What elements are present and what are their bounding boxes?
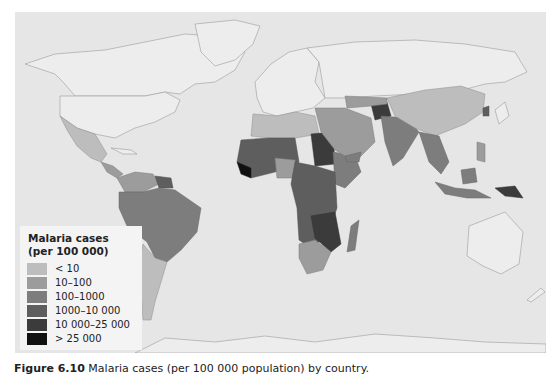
region-north-africa — [251, 112, 319, 138]
region-indonesia — [435, 182, 491, 198]
region-cuba — [111, 148, 137, 154]
map-legend: Malaria cases (per 100 000) < 10 10–100 … — [20, 226, 142, 350]
region-russia — [307, 40, 527, 98]
legend-swatch — [27, 319, 47, 331]
legend-swatch — [27, 263, 47, 275]
legend-item: > 25 000 — [27, 332, 102, 345]
figure-label: Figure 6.10 — [14, 362, 85, 375]
region-madagascar — [347, 220, 359, 252]
region-southeast-asia — [419, 132, 449, 174]
figure-caption: Figure 6.10 Malaria cases (per 100 000 p… — [14, 362, 369, 375]
region-north-korea — [483, 106, 489, 116]
region-antarctica — [135, 334, 546, 353]
region-new-zealand — [527, 288, 545, 302]
legend-label: 1000–10 000 — [55, 305, 120, 316]
region-guianas — [155, 176, 173, 188]
legend-swatch — [27, 305, 47, 317]
region-philippines — [477, 142, 485, 162]
region-europe — [255, 48, 325, 116]
region-borneo — [461, 168, 477, 184]
region-colombia-venezuela — [117, 172, 159, 192]
legend-title-line1: Malaria cases — [28, 232, 109, 245]
region-japan — [495, 102, 509, 124]
legend-item: 100–1000 — [27, 290, 105, 303]
region-central-america — [101, 162, 123, 178]
legend-item: 10 000–25 000 — [27, 318, 130, 331]
legend-item: < 10 — [27, 262, 79, 275]
legend-label: 10 000–25 000 — [55, 319, 130, 330]
region-papua-new-guinea — [495, 186, 523, 198]
legend-item: 10–100 — [27, 276, 92, 289]
legend-label: 10–100 — [55, 277, 92, 288]
legend-swatch — [27, 277, 47, 289]
legend-label: < 10 — [55, 263, 79, 274]
legend-label: 100–1000 — [55, 291, 105, 302]
legend-title: Malaria cases (per 100 000) — [28, 232, 109, 258]
region-australia — [467, 212, 523, 274]
legend-item: 1000–10 000 — [27, 304, 120, 317]
legend-swatch — [27, 291, 47, 303]
legend-title-line2: (per 100 000) — [28, 245, 109, 258]
legend-swatch — [27, 333, 47, 345]
legend-label: > 25 000 — [55, 333, 102, 344]
caption-text: Malaria cases (per 100 000 population) b… — [85, 362, 369, 375]
